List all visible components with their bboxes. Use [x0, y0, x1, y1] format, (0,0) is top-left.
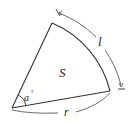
- area-label: S: [59, 65, 66, 80]
- angle-label: a: [24, 92, 29, 103]
- sector-diagram: S a ° l r: [0, 0, 132, 122]
- arc-length-dim-upper: [59, 13, 96, 37]
- arc-length-dim-lower: [105, 50, 121, 85]
- degree-symbol: °: [31, 90, 34, 96]
- arc-length-dimension: [56, 9, 125, 89]
- radius-dim-left: [12, 110, 58, 113]
- radius-label: r: [64, 105, 69, 119]
- arc-length-label: l: [98, 34, 102, 49]
